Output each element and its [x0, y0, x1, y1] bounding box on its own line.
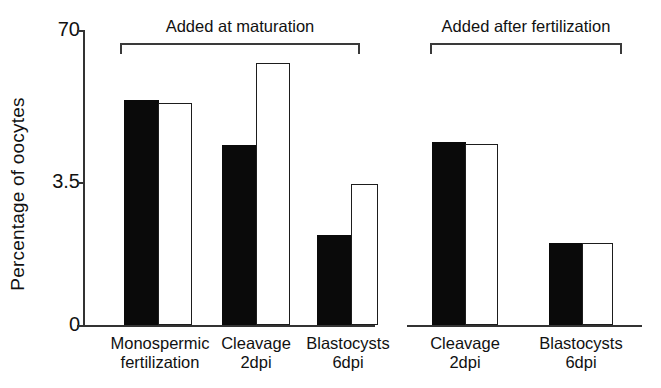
bracket-label-added-at-maturation: Added at maturation: [120, 17, 360, 36]
x-category-cleavage-2dpi-fertilization: Cleavage 2dpi: [405, 334, 525, 372]
right-panel-x-axis-line: [407, 325, 642, 327]
x-category-line1: Blastocysts: [521, 334, 641, 353]
bar-open-cleavage-2dpi-fertilization: [465, 144, 498, 325]
bar-filled-cleavage-2dpi-maturation: [222, 145, 257, 325]
x-category-blastocysts-6dpi-maturation: Blastocysts 6dpi: [288, 334, 408, 372]
bar-filled-cleavage-2dpi-fertilization: [432, 142, 466, 325]
bar-open-cleavage-2dpi-maturation: [256, 63, 290, 325]
x-category-line2: 6dpi: [521, 353, 641, 372]
left-panel-x-axis-line: [83, 325, 375, 327]
y-tick-label-3-5: 3.5: [30, 170, 80, 193]
bracket-added-at-maturation: [120, 43, 360, 54]
bar-open-blastocysts-6dpi-fertilization: [582, 243, 613, 325]
bracket-label-added-after-fertilization: Added after fertilization: [414, 17, 638, 36]
bar-chart-figure: Percentage of oocytes 70 3.5 0 Added at …: [0, 0, 661, 388]
y-tick-label-0: 0: [46, 313, 80, 336]
bracket-added-after-fertilization: [430, 43, 622, 54]
bar-open-blastocysts-6dpi-maturation: [351, 184, 378, 325]
left-panel-y-axis-line: [83, 30, 85, 327]
bar-filled-blastocysts-6dpi-maturation: [317, 235, 352, 325]
x-category-line1: Blastocysts: [288, 334, 408, 353]
x-category-line2: 2dpi: [405, 353, 525, 372]
x-category-blastocysts-6dpi-fertilization: Blastocysts 6dpi: [521, 334, 641, 372]
x-category-line1: Cleavage: [405, 334, 525, 353]
bar-open-monospermic-fertilization: [158, 103, 192, 325]
bar-filled-blastocysts-6dpi-fertilization: [549, 243, 583, 325]
y-axis-title: Percentage of oocytes: [0, 0, 36, 388]
x-category-line2: 6dpi: [288, 353, 408, 372]
y-tick-label-70: 70: [36, 18, 80, 41]
bar-filled-monospermic-fertilization: [124, 100, 159, 325]
